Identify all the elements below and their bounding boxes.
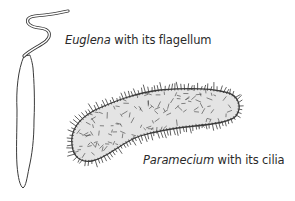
euglena-caption: Euglena with its flagellum — [65, 33, 211, 47]
euglena-name: Euglena — [65, 33, 111, 47]
paramecium-caption-rest: with its cilia — [214, 153, 285, 167]
illustration — [0, 0, 295, 201]
paramecium-caption: Paramecium with its cilia — [143, 153, 285, 167]
euglena-drawing — [17, 11, 68, 188]
paramecium-name: Paramecium — [143, 153, 214, 167]
paramecium-body — [72, 89, 239, 162]
euglena-caption-rest: with its flagellum — [111, 33, 212, 47]
euglena-body — [17, 55, 35, 188]
